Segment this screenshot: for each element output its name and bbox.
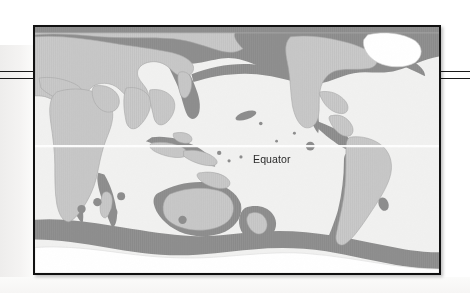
horizontal-rule-right-lower (441, 78, 470, 79)
equator-label: Equator (253, 153, 291, 165)
paper-grain-overlay (35, 27, 439, 273)
horizontal-rule-right-upper (441, 71, 470, 72)
world-map-graphic (35, 27, 439, 273)
horizontal-rule-left-upper (0, 71, 33, 72)
scan-edge-shading-left (0, 45, 33, 293)
horizontal-rule-left-lower (0, 78, 33, 79)
world-map-figure: Equator (33, 25, 441, 275)
scan-edge-shading-bottom (0, 277, 470, 293)
